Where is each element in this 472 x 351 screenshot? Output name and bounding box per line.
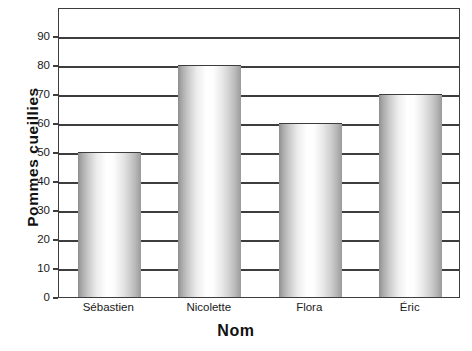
gridline-50	[241, 153, 279, 155]
x-tick-label-nicolette: Nicolette	[159, 301, 260, 313]
gridline-30	[141, 211, 179, 213]
gridline-40	[59, 182, 78, 184]
gridline-20	[141, 240, 179, 242]
gridline-40	[342, 182, 380, 184]
bar-s-bastien	[78, 152, 141, 297]
gridline-40	[241, 182, 279, 184]
gridline-30	[59, 211, 78, 213]
gridline-50	[141, 153, 179, 155]
gridline-60	[342, 124, 380, 126]
x-axis-title: Nom	[0, 322, 472, 340]
bar--ric	[379, 94, 442, 297]
gridline-70	[442, 95, 460, 97]
y-tick-label-20: 20	[22, 234, 50, 246]
gridline-80	[241, 66, 460, 68]
gridline-60	[59, 124, 178, 126]
y-tick-label-90: 90	[22, 31, 50, 43]
plot-area	[58, 8, 460, 298]
y-tick-label-30: 30	[22, 205, 50, 217]
y-tick-label-10: 10	[22, 263, 50, 275]
gridline-10	[241, 269, 279, 271]
gridline-20	[241, 240, 279, 242]
x-tick-label-flora: Flora	[259, 301, 360, 313]
gridline-50	[59, 153, 78, 155]
gridline-60	[241, 124, 279, 126]
gridline-60	[442, 124, 460, 126]
gridline-50	[442, 153, 460, 155]
gridline-20	[342, 240, 380, 242]
gridline-10	[59, 269, 78, 271]
gridline-50	[342, 153, 380, 155]
gridline-10	[442, 269, 460, 271]
gridline-20	[442, 240, 460, 242]
y-tick-label-70: 70	[22, 89, 50, 101]
x-tick-label-s-bastien: Sébastien	[58, 301, 159, 313]
chart-figure: Pommes cueillies 0102030405060708090 Séb…	[0, 0, 472, 351]
y-tick-label-80: 80	[22, 60, 50, 72]
y-tick-label-50: 50	[22, 147, 50, 159]
gridline-80	[59, 66, 178, 68]
gridline-10	[141, 269, 179, 271]
gridline-90	[59, 37, 460, 39]
gridline-20	[59, 240, 78, 242]
gridline-40	[442, 182, 460, 184]
gridline-30	[342, 211, 380, 213]
gridline-40	[141, 182, 179, 184]
bar-nicolette	[178, 65, 241, 297]
y-tick-label-0: 0	[22, 292, 50, 304]
gridline-70	[59, 95, 178, 97]
x-tick-label--ric: Éric	[360, 301, 461, 313]
y-tick-label-60: 60	[22, 118, 50, 130]
gridline-70	[241, 95, 379, 97]
gridline-30	[241, 211, 279, 213]
gridline-30	[442, 211, 460, 213]
gridline-10	[342, 269, 380, 271]
y-tick-label-40: 40	[22, 176, 50, 188]
bar-flora	[279, 123, 342, 297]
